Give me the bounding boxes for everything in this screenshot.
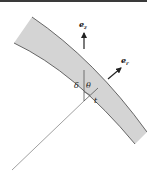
diagram-canvas: ez er δ θ t [0,0,147,183]
shell-band [14,17,147,144]
theta-label: θ [86,81,91,90]
delta-label: δ [74,81,79,90]
arrow-up-right-icon [108,68,121,79]
e-z-vector: ez [79,19,87,49]
e-z-label: ez [79,19,87,30]
e-r-label: er [121,55,129,66]
e-r-vector: er [108,55,129,79]
radial-line [12,101,84,170]
